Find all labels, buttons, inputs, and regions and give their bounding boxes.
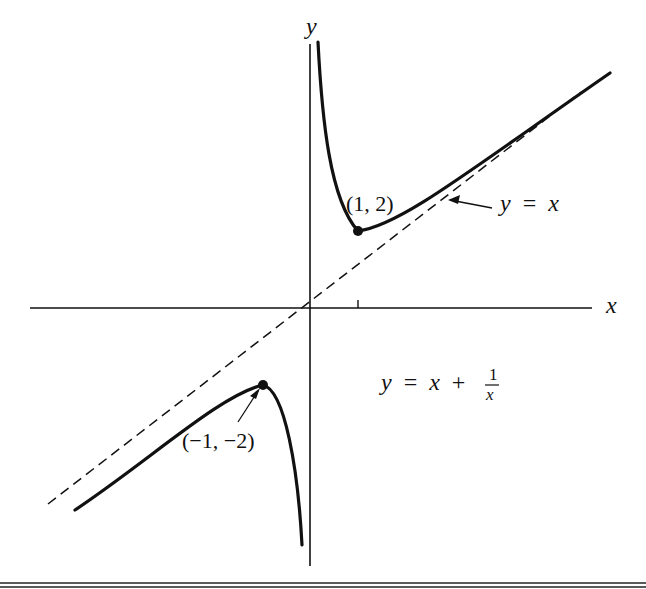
x-axis-label: x [605, 292, 617, 318]
function-label-numerator: 1 [489, 365, 498, 384]
function-label: y = x + [379, 369, 465, 395]
label-point-max: (−1, −2) [182, 428, 254, 453]
function-label-denominator: x [485, 385, 494, 404]
curve-lower-branch [75, 385, 302, 545]
point-min [353, 226, 363, 236]
arrowhead-icon [448, 195, 460, 204]
asymptote-label: y = x [498, 190, 559, 216]
asymptote-line [48, 92, 581, 504]
label-point-min: (1, 2) [346, 191, 394, 216]
graph-figure: y x (1, 2) (−1, −2) y = x y = x + 1 x [0, 0, 646, 589]
y-axis-label: y [304, 13, 317, 39]
